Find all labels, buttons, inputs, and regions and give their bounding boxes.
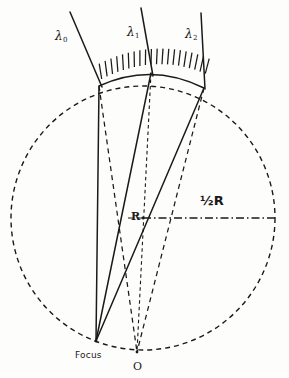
label-half-radius: ½R	[200, 194, 224, 207]
label-lambda-left: λ0	[55, 30, 68, 44]
label-origin-o: O	[133, 361, 142, 372]
lambda-middle-subscript: 1	[135, 32, 140, 40]
lambda-right-symbol: λ	[185, 27, 193, 41]
label-lambda-middle: λ1	[127, 26, 140, 40]
focus-ray-middle	[96, 73, 151, 341]
label-lambda-right: λ2	[185, 28, 198, 42]
figure-canvas	[0, 0, 289, 378]
focus-point-marker	[95, 340, 98, 343]
label-center-point-r: R	[131, 211, 140, 222]
lambda-middle-symbol: λ	[127, 25, 135, 39]
label-focus: Focus	[75, 351, 102, 360]
lambda-left-subscript: 0	[63, 36, 68, 44]
lambda-left-symbol: λ	[55, 29, 63, 43]
incident-ray-lambda1	[141, 8, 153, 76]
rowland-circle-figure: λ0 λ1 λ2 ½R R Focus O	[0, 0, 289, 378]
incident-ray-lambda0	[70, 12, 102, 87]
focus-ray-right	[96, 88, 204, 341]
incident-ray-lambda2	[201, 13, 205, 89]
focus-ray-left	[96, 86, 99, 341]
origin-point-marker	[136, 351, 139, 354]
lambda-right-subscript: 2	[193, 34, 198, 42]
center-point-marker	[142, 217, 145, 220]
